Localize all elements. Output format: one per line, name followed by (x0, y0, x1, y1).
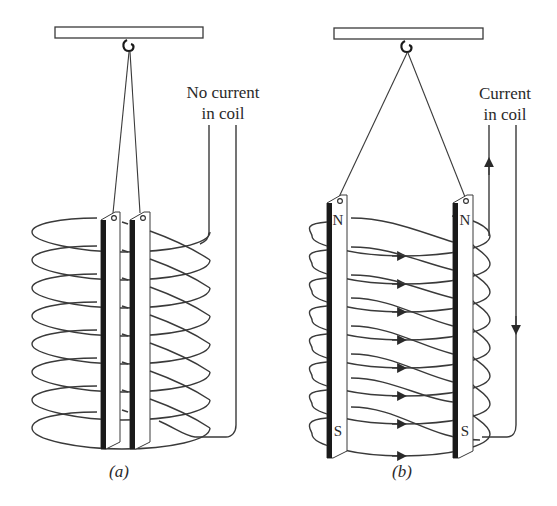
caption-a: (a) (109, 462, 129, 481)
label-no-current: No current (186, 83, 259, 102)
hook-icon-a (123, 40, 133, 51)
magnet-bar-left-b: N S (327, 195, 347, 458)
pole-n-left: N (333, 212, 344, 228)
pole-n-right: N (460, 212, 471, 228)
suspension-strings-b (339, 53, 465, 197)
label-in-coil-b: in coil (484, 105, 527, 124)
coil-leads-b (482, 125, 516, 437)
panel-b: N S N S Current in coil (b) (309, 28, 531, 481)
pole-s-left: S (334, 423, 342, 439)
pole-s-right: S (461, 423, 469, 439)
label-in-coil-a: in coil (202, 104, 245, 123)
label-current: Current (479, 84, 531, 103)
caption-b: (b) (392, 462, 412, 481)
coil-a-back (32, 218, 210, 449)
ceiling-support-b (334, 28, 483, 39)
suspension-strings-a (113, 52, 140, 213)
iron-bar-right-a (130, 212, 150, 449)
magnet-bar-right-b: N S (453, 195, 473, 458)
coil-current-arrows-b (392, 256, 402, 456)
panel-a: No current in coil (a) (32, 27, 260, 481)
hook-icon-b (401, 41, 411, 52)
ceiling-support-a (55, 27, 203, 38)
magnetization-diagram: No current in coil (a) (0, 0, 557, 506)
iron-bar-left-a (101, 212, 120, 449)
